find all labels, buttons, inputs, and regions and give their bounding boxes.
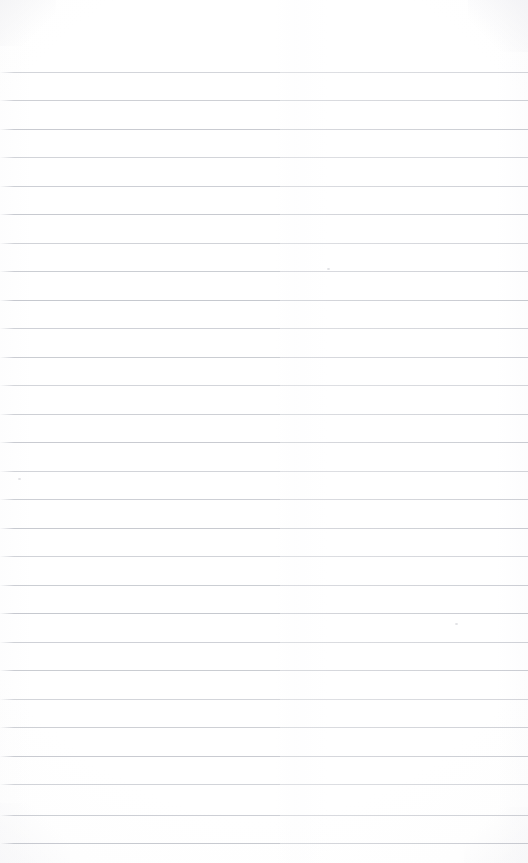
ruled-line — [0, 72, 528, 73]
ruled-line — [0, 357, 528, 358]
ruled-line — [0, 271, 528, 272]
ruled-line — [0, 499, 528, 500]
ruled-line — [0, 385, 528, 386]
ruled-line — [0, 100, 528, 101]
ruled-line — [0, 815, 528, 816]
ruled-line — [0, 414, 528, 415]
ruled-line — [0, 471, 528, 472]
ruled-line — [0, 585, 528, 586]
ruled-line — [0, 556, 528, 557]
ruled-line — [0, 699, 528, 700]
ruled-line — [0, 784, 528, 785]
ruled-line — [0, 214, 528, 215]
ruled-line — [0, 727, 528, 728]
ruled-line — [0, 328, 528, 329]
ruled-lines-layer — [0, 0, 528, 863]
ruled-line — [0, 129, 528, 130]
ruled-line — [0, 670, 528, 671]
ruled-line — [0, 756, 528, 757]
ruled-line — [0, 243, 528, 244]
ruled-line — [0, 528, 528, 529]
ruled-line — [0, 157, 528, 158]
ruled-line — [0, 442, 528, 443]
ruled-line — [0, 300, 528, 301]
ruled-line — [0, 186, 528, 187]
ruled-line — [0, 843, 528, 844]
ruled-line — [0, 613, 528, 614]
ruled-line — [0, 642, 528, 643]
lined-paper-page: Blank ruled notebook page — [0, 0, 528, 863]
